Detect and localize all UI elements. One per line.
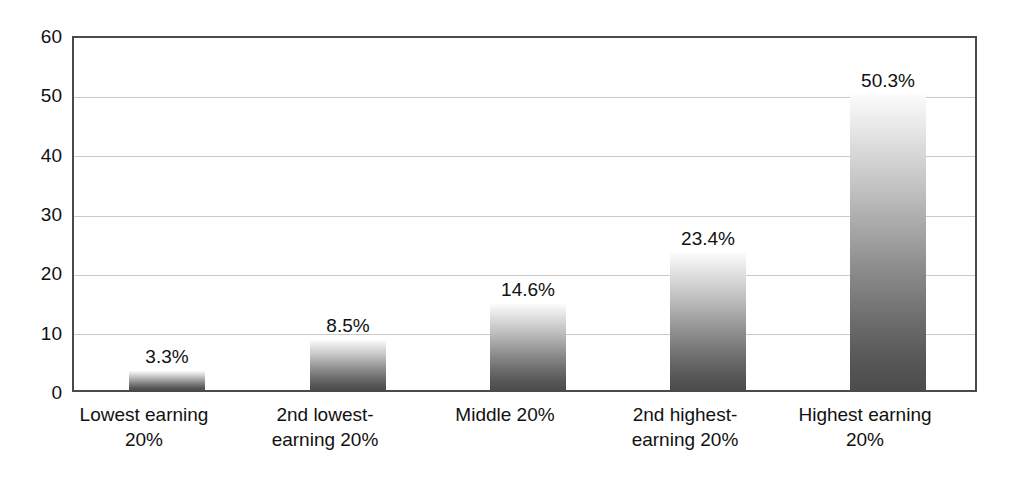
x-tick-label-2nd-highest-earning-20: 2nd highest- earning 20%: [598, 402, 772, 452]
y-tick-label: 10: [6, 324, 62, 343]
bar-value-label: 8.5%: [310, 316, 386, 335]
bar-2nd-highest-earning-20: [670, 253, 746, 390]
x-label-line: 20%: [57, 427, 231, 452]
x-label-line: 20%: [778, 427, 952, 452]
bar-middle-20: [490, 304, 566, 390]
x-label-line: earning 20%: [598, 427, 772, 452]
y-tick-label: 20: [6, 264, 62, 283]
x-tick-label-middle-20: Middle 20%: [418, 402, 592, 427]
y-tick-label: 60: [6, 27, 62, 46]
bar-value-label: 50.3%: [850, 71, 926, 90]
plot-area: 3.3% 8.5% 14.6% 23.4% 50.3%: [72, 36, 977, 392]
x-tick-label-lowest-earning-20: Lowest earning 20%: [57, 402, 231, 452]
gridline-50: [74, 97, 975, 98]
x-label-line: 2nd lowest-: [238, 402, 412, 427]
bar-2nd-lowest-earning-20: [310, 340, 386, 390]
x-label-line: Lowest earning: [57, 402, 231, 427]
x-label-line: Middle 20%: [418, 402, 592, 427]
bar-lowest-earning-20: [129, 371, 205, 390]
x-label-line: earning 20%: [238, 427, 412, 452]
x-tick-label-2nd-lowest-earning-20: 2nd lowest- earning 20%: [238, 402, 412, 452]
x-tick-label-highest-earning-20: Highest earning 20%: [778, 402, 952, 452]
gridline-40: [74, 156, 975, 157]
bar-highest-earning-20: [850, 95, 926, 390]
y-tick-label: 30: [6, 205, 62, 224]
bar-value-label: 23.4%: [670, 229, 746, 248]
bar-value-label: 14.6%: [490, 280, 566, 299]
y-axis: 60 50 40 30 20 10 0: [0, 36, 62, 392]
x-label-line: 2nd highest-: [598, 402, 772, 427]
bar-value-label: 3.3%: [129, 347, 205, 366]
gridline-30: [74, 216, 975, 217]
y-tick-label: 50: [6, 86, 62, 105]
y-tick-label: 40: [6, 146, 62, 165]
gridline-20: [74, 275, 975, 276]
x-label-line: Highest earning: [778, 402, 952, 427]
bar-chart: 60 50 40 30 20 10 0 3.3% 8.5% 14.6% 23.4…: [0, 0, 1013, 490]
y-tick-label: 0: [6, 383, 62, 402]
